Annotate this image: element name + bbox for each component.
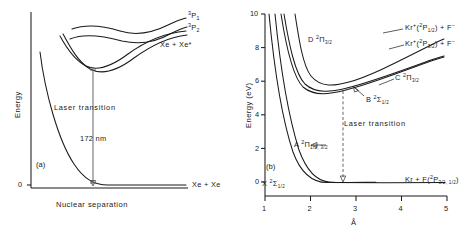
label-state-C: C 2Π3/2 <box>395 74 419 81</box>
panel-b: 10 8 6 4 2 0 1 2 3 4 5 Energy (eV) Å D 2… <box>231 0 462 237</box>
label-laser-transition-a: Laser transition <box>54 104 116 111</box>
panel-b-xlabel: Å <box>351 219 357 227</box>
panel-b-ytick-label-10: 10 <box>250 10 258 17</box>
label-state-X: X 2Σ1/2 <box>262 180 285 187</box>
leader-C <box>379 79 394 85</box>
label-3p1: 3P1 <box>188 12 200 19</box>
label-wavelength: 172 nm <box>80 135 106 142</box>
panel-b-xtick-label-3: 3 <box>353 205 357 212</box>
label-state-B: B 2Σ1/2 <box>366 96 389 103</box>
label-asymptote-ground: Kr + F(2P3/2, 1/2) <box>405 176 459 183</box>
leader-asymptote-lower <box>389 45 404 49</box>
panel-a: 0 Energy Nuclear separation 3P1 3P2 Xe +… <box>0 0 231 237</box>
label-3p2: 3P2 <box>188 24 200 31</box>
label-laser-transition-b: Laser transition <box>344 120 406 127</box>
panel-b-xtick-label-1: 1 <box>262 205 266 212</box>
label-state-D: D 2Π3/2 <box>308 36 332 43</box>
curve-ground-state <box>40 52 186 185</box>
panel-b-ytick-label-4: 4 <box>255 111 259 118</box>
panel-a-ylabel: Energy <box>14 91 22 118</box>
panel-b-xtick-label-2: 2 <box>308 205 312 212</box>
leader-asymptote-upper <box>383 29 403 33</box>
panel-b-id: (b) <box>266 162 275 171</box>
label-state-A: A 2Π1/2, 3/2 <box>294 141 328 148</box>
panel-b-xtick-label-4: 4 <box>399 205 403 212</box>
panel-a-xlabel: Nuclear separation <box>56 201 128 209</box>
panel-b-ylabel: Energy (eV) <box>245 83 253 128</box>
panel-b-ytick-label-0: 0 <box>255 178 259 185</box>
label-ground-asymptote: Xe + Xe <box>192 181 221 188</box>
curve-3p1 <box>72 18 186 33</box>
panel-a-ytick-label-0: 0 <box>18 181 22 188</box>
figure-root: 0 Energy Nuclear separation 3P1 3P2 Xe +… <box>0 0 462 237</box>
panel-a-id: (a) <box>36 160 45 169</box>
label-excited-asymptote: Xe + Xe* <box>160 41 192 48</box>
label-asymptote-upper: Kr+(2P1/2) + F− <box>405 24 455 31</box>
panel-b-ytick-label-2: 2 <box>255 145 259 152</box>
panel-b-ytick-label-8: 8 <box>255 44 259 51</box>
label-asymptote-lower: Kr+(2P3/2) + F− <box>405 40 455 47</box>
panel-b-xtick-label-5: 5 <box>444 205 448 212</box>
panel-b-ytick-label-6: 6 <box>255 77 259 84</box>
